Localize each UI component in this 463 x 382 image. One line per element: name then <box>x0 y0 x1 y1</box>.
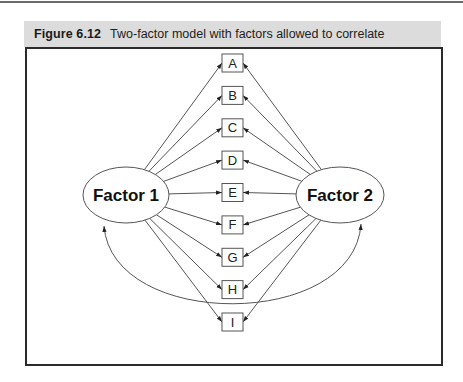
path-factor-2-to-i <box>243 220 321 322</box>
factor-1-label: Factor 1 <box>93 186 159 205</box>
indicator-b: B <box>222 86 243 104</box>
path-factor-2-to-d <box>243 160 302 181</box>
indicator-e: E <box>222 184 243 202</box>
path-factor-1-to-e <box>169 193 222 194</box>
indicator-label: G <box>227 250 237 265</box>
path-factor-2-to-g <box>243 215 309 257</box>
path-factor-1-to-c <box>155 128 222 175</box>
path-factor-1-to-a <box>144 63 222 170</box>
path-factor-1-to-b <box>149 95 222 171</box>
indicator-label: B <box>228 88 237 103</box>
indicator-label: D <box>228 153 237 168</box>
path-factor-2-to-a <box>243 63 321 170</box>
indicator-a: A <box>222 54 243 72</box>
indicator-label: A <box>228 56 237 71</box>
path-factor-1-to-d <box>164 160 222 181</box>
indicators-layer: ABCDEFGHI <box>222 54 243 331</box>
path-factor-1-to-i <box>145 220 222 322</box>
factor-2-label: Factor 2 <box>307 186 373 205</box>
path-factor-2-to-h <box>243 219 316 290</box>
indicator-label: I <box>231 315 235 330</box>
path-factor-1-to-f <box>165 207 222 225</box>
indicator-i: I <box>222 313 243 331</box>
path-factor-1-to-g <box>157 215 223 257</box>
indicator-g: G <box>222 248 243 266</box>
path-factor-2-to-f <box>243 207 300 225</box>
indicator-d: D <box>222 151 243 169</box>
indicator-label: F <box>229 217 237 232</box>
path-factor-2-to-b <box>243 95 317 171</box>
path-factor-2-to-c <box>243 128 310 175</box>
indicator-label: E <box>228 185 237 200</box>
indicator-label: C <box>228 120 237 135</box>
path-diagram: ABCDEFGHI Factor 1 Factor 2 <box>0 0 463 382</box>
indicator-label: H <box>228 282 237 297</box>
indicator-f: F <box>222 216 243 234</box>
path-factor-1-to-h <box>150 218 222 289</box>
path-factor-2-to-e <box>243 193 296 194</box>
indicator-c: C <box>222 119 243 137</box>
indicator-h: H <box>222 281 243 299</box>
